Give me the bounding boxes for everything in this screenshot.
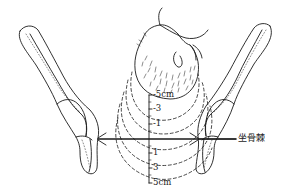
scale-label-plus-1: 1: [153, 148, 158, 157]
pelvis-station-diagram: [0, 0, 294, 188]
scale-label-minus-5cm: -5cm: [153, 90, 174, 99]
fetal-head: [135, 8, 208, 99]
ischial-spine-label: 坐骨棘: [238, 134, 265, 143]
right-pelvic-bone: [190, 24, 271, 174]
left-pelvic-bone: [19, 26, 106, 174]
scale-label-minus-1: -1: [153, 119, 161, 128]
scale-label-plus-3: 3: [153, 163, 158, 172]
scale-label-minus-3: -3: [153, 104, 161, 113]
scale-label-plus-5cm: 5cm: [153, 178, 171, 187]
